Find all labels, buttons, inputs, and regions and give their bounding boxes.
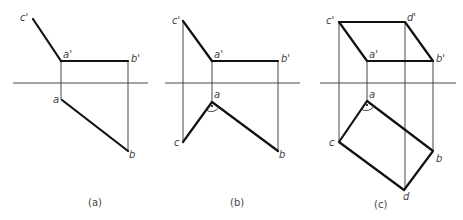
label-c: c	[174, 137, 180, 148]
label-c-prime: c'	[172, 15, 180, 26]
caption-a: (a)	[88, 197, 102, 208]
right-angle-dot-icon	[366, 104, 368, 106]
label-c-prime: c'	[326, 15, 334, 26]
projection-diagram: c' a' b' a b (a) c' a' b' a c b (b) c'	[0, 0, 463, 220]
label-d-prime: d'	[407, 12, 416, 23]
rectangle-top-view	[339, 101, 433, 190]
label-a: a	[214, 89, 220, 100]
label-a-prime: a'	[369, 49, 378, 60]
label-b: b	[279, 149, 285, 160]
caption-b: (b)	[230, 197, 244, 208]
label-c: c	[329, 137, 335, 148]
label-a-prime: a'	[63, 49, 72, 60]
caption-c: (c)	[374, 199, 387, 210]
line-c-prime-a-prime	[183, 21, 212, 61]
label-b-prime: b'	[131, 53, 140, 64]
label-b-prime: b'	[281, 53, 290, 64]
parallelogram-front-view	[339, 22, 433, 61]
label-b-prime: b'	[436, 53, 445, 64]
label-a-prime: a'	[214, 49, 223, 60]
line-c-a-b	[183, 102, 278, 151]
label-a: a	[53, 94, 59, 105]
panel-b: c' a' b' a c b (b)	[165, 15, 300, 208]
label-b: b	[436, 153, 442, 164]
right-angle-dot-icon	[211, 105, 213, 107]
label-a: a	[369, 89, 375, 100]
label-d: d	[403, 191, 410, 202]
panel-a: c' a' b' a b (a)	[13, 12, 148, 208]
line-a-b	[62, 100, 128, 151]
panel-c: c' d' a' b' a c b d (c)	[320, 12, 456, 210]
label-b: b	[129, 149, 135, 160]
line-c-prime-a-prime	[33, 19, 61, 61]
label-c-prime: c'	[20, 12, 28, 23]
